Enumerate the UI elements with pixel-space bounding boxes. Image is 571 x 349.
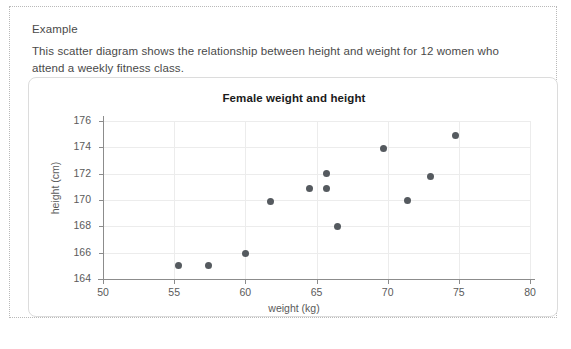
scatter-point xyxy=(242,250,249,257)
x-tick-mark xyxy=(245,279,246,284)
scatter-point xyxy=(404,197,411,204)
x-tick-mark xyxy=(174,279,175,284)
x-axis-title: weight (kg) xyxy=(29,302,559,314)
y-tick-label: 164 xyxy=(51,272,91,284)
gridline-vertical xyxy=(459,121,460,279)
y-tick-mark xyxy=(99,147,104,148)
x-tick-label: 50 xyxy=(83,286,123,298)
x-tick-label: 70 xyxy=(368,286,408,298)
y-tick-mark xyxy=(99,226,104,227)
x-tick-mark xyxy=(459,279,460,284)
gridline-vertical xyxy=(174,121,175,279)
scatter-point xyxy=(175,262,182,269)
scatter-point xyxy=(334,223,341,230)
y-tick-mark xyxy=(99,121,104,122)
example-container: Example This scatter diagram shows the r… xyxy=(9,6,557,318)
gridline-vertical xyxy=(530,121,531,279)
x-tick-mark xyxy=(388,279,389,284)
scatter-point xyxy=(380,145,387,152)
scatter-point xyxy=(427,173,434,180)
scatter-point xyxy=(205,262,212,269)
gridline-vertical xyxy=(388,121,389,279)
y-tick-mark xyxy=(99,200,104,201)
example-heading: Example xyxy=(32,23,78,35)
scatter-plot-area xyxy=(103,121,530,279)
y-tick-mark xyxy=(99,174,104,175)
y-tick-mark xyxy=(99,253,104,254)
scatter-point xyxy=(267,198,274,205)
x-tick-label: 80 xyxy=(510,286,550,298)
y-tick-label: 176 xyxy=(51,114,91,126)
y-axis-title: height (cm) xyxy=(49,143,61,233)
page-root: Example This scatter diagram shows the r… xyxy=(0,0,571,349)
y-tick-label: 166 xyxy=(51,246,91,258)
chart-card: Female weight and height 164166168170172… xyxy=(28,77,558,317)
x-tick-label: 65 xyxy=(297,286,337,298)
x-tick-mark xyxy=(317,279,318,284)
x-tick-mark xyxy=(530,279,531,284)
chart-title: Female weight and height xyxy=(29,92,559,104)
x-tick-label: 60 xyxy=(225,286,265,298)
example-body-text: This scatter diagram shows the relations… xyxy=(32,43,532,77)
scatter-point xyxy=(323,185,330,192)
x-tick-label: 75 xyxy=(439,286,479,298)
x-tick-label: 55 xyxy=(154,286,194,298)
gridline-vertical xyxy=(317,121,318,279)
scatter-point xyxy=(323,170,330,177)
scatter-point xyxy=(306,185,313,192)
x-tick-mark xyxy=(103,279,104,284)
